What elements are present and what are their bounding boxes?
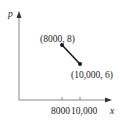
x-axis-arrow-icon bbox=[105, 98, 112, 103]
x-axis-label: x bbox=[109, 106, 115, 116]
x-tick-label-10000: 10,000 bbox=[71, 106, 97, 116]
x-tick-label-8000: 8000 bbox=[51, 106, 70, 116]
y-axis-arrow-icon bbox=[17, 11, 22, 18]
point-1-annotation: (8000, 8) bbox=[40, 34, 75, 45]
data-segment bbox=[62, 45, 80, 64]
point-2-annotation: (10,000, 6) bbox=[71, 70, 113, 81]
chart-canvas: p x 8000 10,000 (8000, 8) (10,000, 6) bbox=[0, 0, 120, 124]
y-axis-label: p bbox=[7, 9, 13, 19]
data-point-2 bbox=[78, 62, 82, 66]
